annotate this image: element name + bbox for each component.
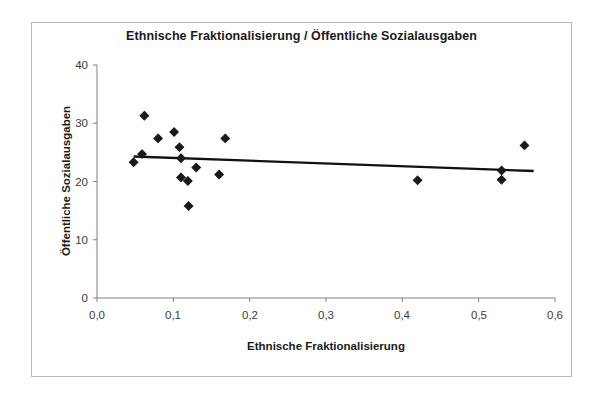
data-point	[129, 158, 137, 166]
data-point	[497, 166, 505, 174]
data-point	[175, 143, 183, 151]
data-points-layer	[129, 111, 528, 210]
data-point	[154, 134, 162, 142]
data-point	[413, 176, 421, 184]
axes-layer	[93, 65, 555, 302]
chart-figure: Ethnische Fraktionalisierung / Öffentlic…	[0, 0, 604, 396]
data-point	[221, 134, 229, 142]
data-point	[520, 141, 528, 149]
data-point	[215, 170, 223, 178]
plot-area	[0, 0, 604, 396]
data-point	[497, 176, 505, 184]
data-point	[140, 111, 148, 119]
data-point	[184, 202, 192, 210]
data-point	[192, 163, 200, 171]
data-point	[170, 128, 178, 136]
data-point	[177, 154, 185, 162]
